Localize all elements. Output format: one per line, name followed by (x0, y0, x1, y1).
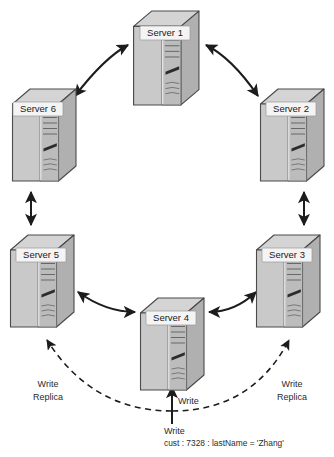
server-node-server-3[interactable]: Server 3 (257, 235, 321, 327)
origin-write-label: Write (164, 426, 185, 436)
server-node-server-1[interactable]: Server 1 (134, 11, 199, 105)
write-replica-left-line1: Write (38, 379, 59, 389)
ring-link-server1-server2 (206, 45, 258, 96)
write-replica-right-line2: Replica (277, 392, 307, 402)
write-replica-left-line2: Replica (33, 392, 63, 402)
server-tower-icon (134, 11, 199, 105)
server-node-server-4[interactable]: Server 4 (141, 298, 205, 390)
server-label-text: Server 5 (23, 249, 59, 260)
ring-link-server6-server1 (75, 45, 128, 96)
server-node-server-2[interactable]: Server 2 (261, 89, 325, 181)
server-label-text: Server 6 (20, 103, 56, 114)
ring-link-server3-server4 (209, 292, 256, 312)
write-replica-right-line1: Write (282, 379, 303, 389)
server-ring-diagram: Server 1 Server 2 Server 3 Server 4 (0, 0, 334, 457)
server-label-text: Server 2 (273, 103, 309, 114)
server-label-text: Server 3 (269, 249, 305, 260)
servers-layer: Server 1 Server 2 Server 3 Server 4 (11, 11, 325, 390)
server-node-server-5[interactable]: Server 5 (11, 235, 75, 327)
ring-link-server4-server5 (78, 292, 135, 312)
server-label-text: Server 1 (147, 27, 183, 38)
server-label-text: Server 4 (153, 312, 189, 323)
diagram-canvas: Server 1 Server 2 Server 3 Server 4 (0, 0, 334, 457)
write-center-label: Write (178, 396, 199, 406)
origin-write-payload: cust : 7328 : lastName = 'Zhang' (164, 438, 284, 448)
server-node-server-6[interactable]: Server 6 (13, 89, 77, 181)
